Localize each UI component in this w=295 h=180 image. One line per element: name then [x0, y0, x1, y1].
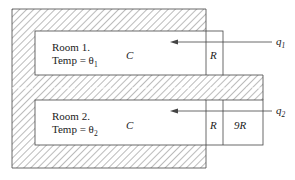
room-2-capacitance: C: [126, 119, 134, 131]
room-1-resistance: R: [209, 49, 217, 61]
room-2-name: Room 2.: [52, 110, 90, 122]
room-2-resistance-outer: 9R: [234, 119, 247, 131]
room-2-resistance-inner: R: [209, 119, 217, 131]
thermal-diagram: Room 1. Temp = θ1 C R Room 2. Temp = θ2 …: [0, 0, 295, 180]
room-1-capacitance: C: [126, 49, 134, 61]
q2-label: q2: [276, 104, 286, 119]
q1-label: q1: [276, 35, 285, 50]
room-1-name: Room 1.: [52, 41, 90, 53]
